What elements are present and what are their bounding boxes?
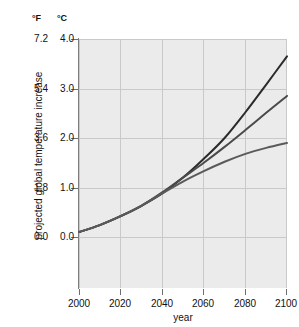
series-line-low-scenario	[79, 143, 287, 232]
series-line-high-scenario	[79, 56, 287, 232]
data-curves	[0, 0, 299, 327]
series-line-mid-scenario	[79, 96, 287, 232]
chart-figure: °F °C projected global temperature incre…	[0, 0, 299, 327]
